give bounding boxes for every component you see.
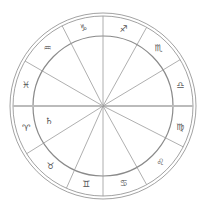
leo-icon: ♌ xyxy=(157,157,165,167)
cusp-line-12 xyxy=(103,106,183,147)
planet-glyphs: ♄ xyxy=(45,116,53,126)
aquarius-icon: ♒ xyxy=(43,43,51,53)
cancer-icon: ♋ xyxy=(120,178,128,188)
libra-icon: ♎ xyxy=(176,80,184,90)
house-cusp-lines xyxy=(13,16,193,196)
scorpio-icon: ♏ xyxy=(155,43,163,53)
sagittarius-icon: ♐ xyxy=(120,24,128,34)
virgo-icon: ♍ xyxy=(176,122,184,132)
saturn-icon: ♄ xyxy=(45,116,53,126)
gemini-icon: ♊ xyxy=(82,179,90,189)
astrology-chart-wheel: ♑♐♏♎♍♌♋♊♉♈♓♒ ♄ xyxy=(0,0,206,212)
pisces-icon: ♓ xyxy=(22,80,30,90)
taurus-icon: ♉ xyxy=(46,161,54,171)
cusp-line-8 xyxy=(27,106,103,154)
aries-icon: ♈ xyxy=(22,123,31,133)
capricorn-icon: ♑ xyxy=(80,23,88,33)
